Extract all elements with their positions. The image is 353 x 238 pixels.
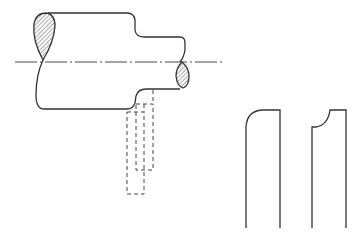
tool-profile-rounded	[246, 110, 280, 228]
technical-drawing	[0, 0, 353, 238]
left-section-hatch	[34, 13, 55, 60]
tool-profile-concave	[312, 110, 346, 228]
shaft	[36, 13, 185, 109]
tool-outline-dashed	[127, 90, 153, 194]
right-section-hatch	[176, 62, 189, 88]
drawing-svg	[0, 0, 353, 238]
